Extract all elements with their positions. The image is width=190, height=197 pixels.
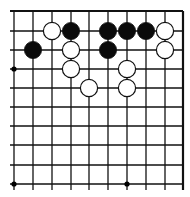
black-stone — [99, 22, 116, 39]
black-stone — [118, 22, 135, 39]
white-stone — [118, 79, 135, 96]
star-point-icon — [124, 181, 129, 186]
white-stone — [62, 41, 79, 58]
white-stone — [118, 60, 135, 77]
white-stone — [62, 60, 79, 77]
black-stone — [62, 22, 79, 39]
go-board — [0, 0, 190, 197]
board-grid — [10, 11, 183, 190]
star-point-icon — [11, 181, 16, 186]
star-point-icon — [11, 66, 16, 71]
black-stone — [99, 41, 116, 58]
white-stone — [43, 22, 60, 39]
black-stone — [137, 22, 154, 39]
white-stone — [156, 22, 173, 39]
black-stone — [24, 41, 41, 58]
white-stone — [156, 41, 173, 58]
white-stone — [80, 79, 97, 96]
stones-layer — [24, 22, 173, 96]
